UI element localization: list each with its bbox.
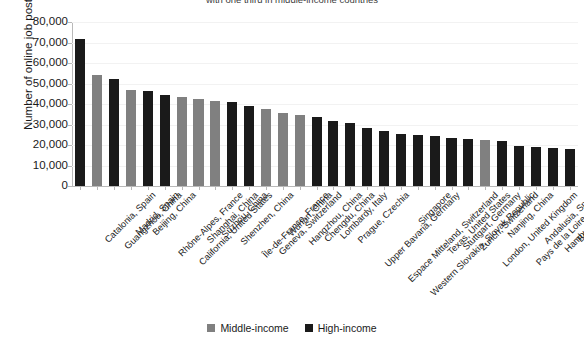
plot-area	[72, 22, 578, 186]
x-tick-mark	[114, 186, 115, 190]
x-tick-mark	[131, 186, 132, 190]
x-tick-mark	[232, 186, 233, 190]
x-tick-mark	[317, 186, 318, 190]
y-tick-label: 70,000	[6, 37, 68, 49]
y-tick-mark	[68, 22, 72, 23]
bar[interactable]	[565, 149, 575, 186]
y-tick-label: 20,000	[6, 139, 68, 151]
bar[interactable]	[177, 97, 187, 186]
gridline	[72, 43, 578, 44]
bar[interactable]	[143, 91, 153, 186]
x-tick-mark	[570, 186, 571, 190]
bar[interactable]	[244, 106, 254, 186]
x-tick-mark	[452, 186, 453, 190]
y-tick-label: 50,000	[6, 78, 68, 90]
x-tick-mark	[519, 186, 520, 190]
bar[interactable]	[413, 135, 423, 186]
x-tick-mark	[401, 186, 402, 190]
y-tick-mark	[68, 63, 72, 64]
x-tick-mark	[536, 186, 537, 190]
y-tick-label: 80,000	[6, 16, 68, 28]
y-tick-mark	[68, 43, 72, 44]
x-tick-mark	[215, 186, 216, 190]
gridline	[72, 84, 578, 85]
bar[interactable]	[463, 139, 473, 186]
x-tick-mark	[182, 186, 183, 190]
y-tick-mark	[68, 84, 72, 85]
legend-item[interactable]: High-income	[305, 322, 377, 334]
bar[interactable]	[312, 117, 322, 186]
x-tick-mark	[350, 186, 351, 190]
bar[interactable]	[497, 141, 507, 186]
bar[interactable]	[92, 75, 102, 186]
bar[interactable]	[227, 102, 237, 186]
x-axis-tick-labels: Catalonia, SpainGuangzhou, ChinaMadrid, …	[0, 186, 584, 311]
x-tick-mark	[300, 186, 301, 190]
y-tick-label: 40,000	[6, 98, 68, 110]
x-tick-mark	[367, 186, 368, 190]
x-tick-mark	[553, 186, 554, 190]
x-tick-mark	[199, 186, 200, 190]
gridline	[72, 63, 578, 64]
bar[interactable]	[160, 95, 170, 186]
x-tick-mark	[468, 186, 469, 190]
bar[interactable]	[75, 39, 85, 186]
bar[interactable]	[328, 121, 338, 186]
y-tick-mark	[68, 166, 72, 167]
x-tick-mark	[97, 186, 98, 190]
bar[interactable]	[193, 99, 203, 186]
bar[interactable]	[295, 115, 305, 186]
bar[interactable]	[109, 79, 119, 186]
x-tick-mark	[502, 186, 503, 190]
legend-swatch-icon	[207, 324, 215, 332]
x-tick-mark	[249, 186, 250, 190]
bar[interactable]	[480, 140, 490, 186]
y-tick-label: 30,000	[6, 119, 68, 131]
x-tick-mark	[266, 186, 267, 190]
y-tick-mark	[68, 104, 72, 105]
x-tick-mark	[165, 186, 166, 190]
y-tick-label: 60,000	[6, 57, 68, 69]
y-axis-tick-labels: 80,00070,00060,00050,00040,00030,00020,0…	[2, 22, 68, 186]
bar[interactable]	[531, 147, 541, 186]
legend-swatch-icon	[305, 324, 313, 332]
y-tick-mark	[68, 145, 72, 146]
bar[interactable]	[362, 128, 372, 186]
bar[interactable]	[514, 146, 524, 186]
x-tick-mark	[333, 186, 334, 190]
x-tick-mark	[148, 186, 149, 190]
x-tick-mark	[384, 186, 385, 190]
bar[interactable]	[210, 101, 220, 186]
x-tick-mark	[485, 186, 486, 190]
bar[interactable]	[278, 113, 288, 186]
x-tick-mark	[80, 186, 81, 190]
chart-title: with one third in middle-income countrie…	[0, 0, 584, 5]
bar[interactable]	[430, 136, 440, 186]
gridline	[72, 22, 578, 23]
bar[interactable]	[261, 109, 271, 186]
bar[interactable]	[396, 134, 406, 186]
chart-page: with one third in middle-income countrie…	[0, 0, 584, 345]
x-tick-mark	[418, 186, 419, 190]
x-tick-mark	[435, 186, 436, 190]
y-tick-label: 10,000	[6, 160, 68, 172]
legend-label: Middle-income	[220, 322, 288, 334]
bar[interactable]	[548, 148, 558, 186]
bar[interactable]	[379, 131, 389, 186]
x-tick-mark	[283, 186, 284, 190]
bar[interactable]	[345, 123, 355, 186]
y-tick-mark	[68, 125, 72, 126]
chart-legend: Middle-incomeHigh-income	[0, 322, 584, 334]
legend-item[interactable]: Middle-income	[207, 322, 288, 334]
bar[interactable]	[446, 138, 456, 186]
bar[interactable]	[126, 90, 136, 186]
legend-label: High-income	[318, 322, 377, 334]
